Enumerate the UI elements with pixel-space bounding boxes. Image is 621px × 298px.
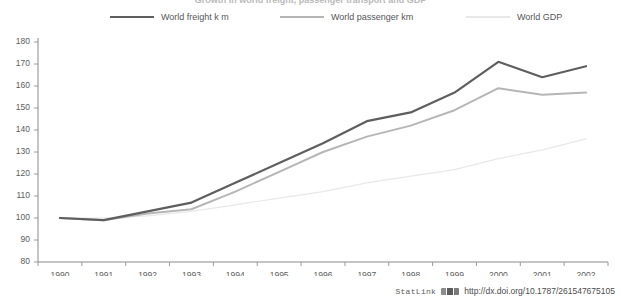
- x-tick-label: 1999: [445, 270, 464, 276]
- y-tick-label: 120: [16, 168, 30, 178]
- plot-svg: 8090100110120130140150160170180 19901991…: [0, 26, 621, 276]
- series-line-world-passenger-km: [60, 88, 586, 220]
- x-tick-label: 1994: [226, 270, 245, 276]
- y-tick-label: 140: [16, 124, 30, 134]
- legend-swatch-world-freight: [110, 16, 154, 18]
- y-axis-ticks: [34, 42, 38, 262]
- statlink-url[interactable]: http://dx.doi.org/10.1787/261547675105: [464, 286, 615, 296]
- y-tick-label: 170: [16, 58, 30, 68]
- x-tick-label: 2002: [577, 270, 596, 276]
- x-tick-label: 1997: [357, 270, 376, 276]
- chart-container: Growth in world freight, passenger trans…: [0, 0, 621, 298]
- y-tick-label: 90: [21, 234, 31, 244]
- statlink-barcode-icon: [441, 288, 459, 295]
- x-axis-ticks: [38, 262, 608, 266]
- y-tick-label: 180: [16, 36, 30, 46]
- legend-swatch-world-passenger: [280, 16, 324, 18]
- series-lines: [60, 62, 586, 220]
- legend-label-world-gdp: World GDP: [517, 12, 562, 23]
- legend-label-world-passenger: World passenger km: [331, 12, 413, 23]
- series-line-world-gdp: [60, 139, 586, 218]
- chart-legend: World freight k m World passenger km Wor…: [0, 8, 621, 26]
- x-tick-label: 2001: [533, 270, 552, 276]
- x-tick-label: 1991: [94, 270, 113, 276]
- x-tick-label: 1992: [138, 270, 157, 276]
- x-tick-label: 1998: [401, 270, 420, 276]
- y-tick-label: 160: [16, 80, 30, 90]
- y-axis-labels: 8090100110120130140150160170180: [16, 36, 30, 266]
- legend-label-world-freight: World freight k m: [161, 12, 229, 23]
- legend-swatch-world-gdp: [466, 16, 510, 18]
- legend-item-world-freight: World freight k m: [110, 8, 229, 26]
- page-title: Growth in world freight, passenger trans…: [0, 0, 621, 5]
- x-tick-label: 1990: [50, 270, 69, 276]
- y-tick-label: 110: [16, 190, 30, 200]
- legend-item-world-passenger: World passenger km: [280, 8, 413, 26]
- x-tick-label: 1996: [314, 270, 333, 276]
- series-line-world-freight-k-m: [60, 62, 586, 220]
- x-tick-label: 2000: [489, 270, 508, 276]
- statlink-label: StatLink: [395, 287, 436, 296]
- plot-area: 8090100110120130140150160170180 19901991…: [0, 26, 621, 276]
- y-tick-label: 100: [16, 212, 30, 222]
- x-tick-label: 1995: [270, 270, 289, 276]
- x-tick-label: 1993: [182, 270, 201, 276]
- statlink-footer[interactable]: StatLink http://dx.doi.org/10.1787/26154…: [395, 286, 615, 296]
- y-tick-label: 130: [16, 146, 30, 156]
- y-tick-label: 80: [21, 256, 31, 266]
- y-tick-label: 150: [16, 102, 30, 112]
- legend-item-world-gdp: World GDP: [466, 8, 562, 26]
- chart-title-cropped: Growth in world freight, passenger trans…: [0, 0, 621, 6]
- x-axis-labels: 1990199119921993199419951996199719981999…: [50, 270, 595, 276]
